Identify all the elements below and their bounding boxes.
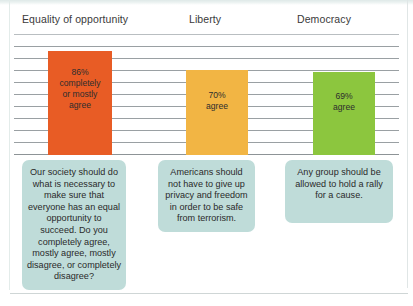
bar-value-label-democracy: 69%agree [313, 91, 375, 113]
column-header-liberty: Liberty [189, 13, 221, 25]
bar-equality-of-opportunity[interactable]: 86%completelyor mostlyagree [48, 51, 112, 155]
column-header-equality-of-opportunity: Equality of opportunity [22, 13, 128, 25]
question-callouts: Our society should do what is necessary … [0, 160, 413, 290]
column-header-democracy: Democracy [297, 13, 351, 25]
bar-value-label-equality-of-opportunity: 86%completelyor mostlyagree [48, 67, 112, 111]
bar-democracy[interactable]: 69%agree [313, 72, 375, 155]
column-headers: Equality of opportunity Liberty Democrac… [0, 13, 413, 31]
bar-value-label-liberty: 70%agree [186, 90, 248, 112]
bar-chart-figure: Equality of opportunity Liberty Democrac… [0, 0, 413, 306]
bar-series: 86%completelyor mostlyagree70%agree69%ag… [14, 34, 399, 155]
page-edge-top [0, 0, 413, 5]
plot-area: 86%completelyor mostlyagree70%agree69%ag… [14, 34, 399, 155]
bar-liberty[interactable]: 70%agree [186, 70, 248, 155]
callout-democracy: Any group should be allowed to hold a ra… [285, 160, 393, 223]
callout-liberty: Americans should not have to give up pri… [158, 160, 255, 232]
page-edge-bottom [10, 293, 408, 294]
callout-equality-of-opportunity: Our society should do what is necessary … [22, 160, 126, 290]
